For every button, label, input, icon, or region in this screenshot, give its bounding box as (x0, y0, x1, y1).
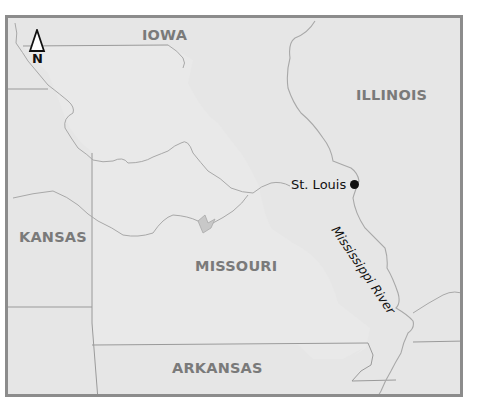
state-label-kansas: KANSAS (19, 229, 87, 245)
map-geography (8, 18, 460, 394)
tennessee-border (413, 341, 460, 342)
city-label-st-louis: St. Louis (291, 177, 346, 192)
city-marker-dot (350, 180, 359, 189)
state-label-illinois: ILLINOIS (356, 87, 427, 103)
state-label-arkansas: ARKANSAS (172, 360, 263, 376)
state-label-missouri: MISSOURI (195, 258, 277, 274)
ohio-river (413, 292, 460, 313)
missouri-region (23, 45, 370, 359)
north-label: N (32, 51, 43, 66)
state-label-iowa: IOWA (142, 27, 187, 43)
map-frame: N IOWA ILLINOIS KANSAS MISSOURI ARKANSAS… (5, 15, 463, 397)
